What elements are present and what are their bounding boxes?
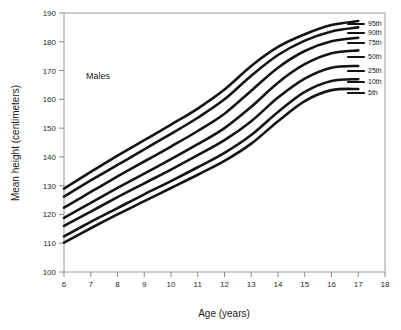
x-tick-label: 13 bbox=[247, 280, 256, 289]
x-tick-label: 17 bbox=[354, 280, 363, 289]
x-tick-label: 16 bbox=[327, 280, 336, 289]
x-tick-label: 14 bbox=[274, 280, 283, 289]
x-tick-label: 12 bbox=[220, 280, 229, 289]
x-axis-title: Age (years) bbox=[198, 308, 250, 319]
series-label-10th: 10th bbox=[368, 78, 382, 85]
y-tick-label: 190 bbox=[43, 9, 57, 18]
x-tick-label: 6 bbox=[62, 280, 67, 289]
series-label-90th: 90th bbox=[368, 29, 382, 36]
percentile-curves-group bbox=[64, 21, 358, 243]
percentile-curve-5th bbox=[64, 89, 358, 243]
x-tick-label: 11 bbox=[194, 280, 203, 289]
y-tick-label: 170 bbox=[43, 67, 57, 76]
panel-annotation-males: Males bbox=[86, 71, 111, 81]
series-label-5th: 5th bbox=[368, 89, 378, 96]
percentile-curve-75th bbox=[64, 38, 358, 208]
growth-chart-figure: 100110120130140150160170180190 678910111… bbox=[0, 0, 401, 330]
y-tick-label: 140 bbox=[43, 153, 57, 162]
y-tick-label: 110 bbox=[43, 239, 56, 248]
y-tick-label: 120 bbox=[43, 210, 57, 219]
x-tick-label: 9 bbox=[142, 280, 147, 289]
chart-canvas: 100110120130140150160170180190 678910111… bbox=[0, 0, 401, 330]
y-axis-title: Mean height (centimeters) bbox=[10, 85, 21, 201]
series-label-95th: 95th bbox=[368, 20, 382, 27]
y-axis-ticks: 100110120130140150160170180190 bbox=[43, 9, 64, 277]
y-tick-label: 160 bbox=[43, 95, 57, 104]
x-tick-label: 8 bbox=[115, 280, 120, 289]
percentile-curve-10th bbox=[64, 79, 358, 236]
y-tick-label: 130 bbox=[43, 182, 57, 191]
series-labels-group: 95th90th75th50th25th10th5th bbox=[368, 20, 382, 96]
series-label-75th: 75th bbox=[368, 39, 382, 46]
percentile-curve-90th bbox=[64, 27, 358, 196]
series-label-50th: 50th bbox=[368, 53, 382, 60]
x-tick-label: 7 bbox=[89, 280, 94, 289]
y-tick-label: 150 bbox=[43, 124, 57, 133]
x-axis-ticks: 6789101112131415161718 bbox=[62, 272, 390, 289]
series-leader-lines-group bbox=[348, 24, 364, 93]
y-tick-label: 180 bbox=[43, 38, 57, 47]
percentile-curve-25th bbox=[64, 66, 358, 226]
y-tick-label: 100 bbox=[43, 268, 57, 277]
x-tick-label: 15 bbox=[300, 280, 309, 289]
series-label-25th: 25th bbox=[368, 67, 382, 74]
x-tick-label: 18 bbox=[381, 280, 390, 289]
x-tick-label: 10 bbox=[167, 280, 176, 289]
